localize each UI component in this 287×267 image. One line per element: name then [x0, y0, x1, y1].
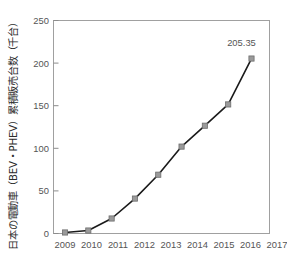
x-tick-label-2010: 2010 [81, 239, 102, 250]
data-markers [62, 56, 254, 235]
data-point-2011 [109, 216, 114, 221]
x-tick-label-2013: 2013 [161, 239, 182, 250]
data-label-2017: 205.35 [227, 37, 256, 48]
data-point-2016 [226, 102, 231, 107]
plot-frame [54, 21, 270, 234]
line-chart-plot: 0 50 100 150 200 250 2009 2010 2011 2012… [0, 0, 287, 267]
data-point-2014 [179, 144, 184, 149]
x-tick-label-2014: 2014 [187, 239, 208, 250]
x-tick-label-2009: 2009 [55, 239, 76, 250]
y-tick-label-150: 150 [33, 100, 49, 111]
y-tick-label-50: 50 [39, 185, 49, 196]
data-point-2017 [249, 56, 254, 61]
y-tick-label-0: 0 [44, 228, 49, 239]
y-tick-label-100: 100 [33, 143, 49, 154]
data-line [65, 59, 252, 233]
data-point-2015 [202, 123, 207, 128]
x-tick-label-2017: 2017 [267, 239, 287, 250]
data-point-2012 [132, 196, 137, 201]
x-tick-label-2012: 2012 [134, 239, 155, 250]
x-tick-label-2016: 2016 [240, 239, 261, 250]
data-point-2009 [62, 230, 67, 235]
y-tick-label-200: 200 [33, 58, 49, 69]
y-tick-label-250: 250 [33, 15, 49, 26]
y-axis-ticks [54, 21, 59, 234]
x-tick-label-2015: 2015 [214, 239, 235, 250]
x-tick-label-2011: 2011 [108, 239, 128, 250]
data-point-2010 [86, 228, 91, 233]
data-point-2013 [156, 172, 161, 177]
chart-container: 日本の電動車（BEV・PHEV）累積販売台数（千台） 0 50 100 150 … [0, 0, 287, 267]
